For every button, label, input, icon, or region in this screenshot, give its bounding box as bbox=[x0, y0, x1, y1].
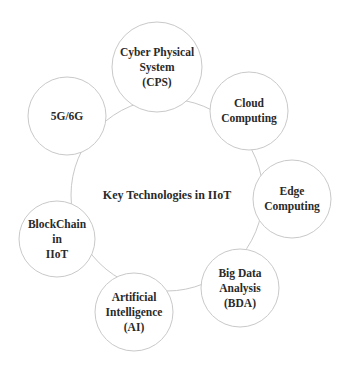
node-label-ai: Artificial Intelligence (AI) bbox=[106, 290, 163, 335]
node-label-edge: Edge Computing bbox=[264, 184, 320, 214]
node-label-cps: Cyber Physical System (CPS) bbox=[120, 45, 194, 90]
node-label-cloud: Cloud Computing bbox=[221, 96, 277, 126]
node-label-blockchain: BlockChain in IIoT bbox=[28, 217, 86, 262]
node-label-5g6g: 5G/6G bbox=[51, 109, 84, 124]
center-label: Key Technologies in IIoT bbox=[103, 188, 231, 203]
diagram-canvas: Key Technologies in IIoT Cyber Physical … bbox=[0, 0, 346, 365]
node-label-bda: Big Data Analysis (BDA) bbox=[218, 266, 261, 311]
